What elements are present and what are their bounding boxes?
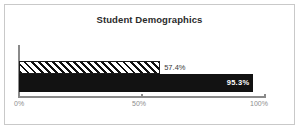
x-axis-tick-0 — [18, 94, 20, 97]
x-tick-label-100: 100% — [250, 100, 268, 107]
chart-title: Student Demographics — [0, 14, 299, 25]
bar-value-label-hatched: 57.4% — [164, 63, 185, 72]
x-axis-tick-50 — [141, 94, 143, 97]
bar-hatched — [19, 61, 160, 74]
bar-value-label-solid: 95.3% — [205, 78, 249, 87]
chart-container: Student Demographics 0% 50% 100% 57.4% 9… — [0, 0, 299, 129]
x-tick-label-50: 50% — [132, 100, 146, 107]
x-axis-tick-100 — [264, 94, 266, 97]
x-tick-label-0: 0% — [14, 100, 24, 107]
